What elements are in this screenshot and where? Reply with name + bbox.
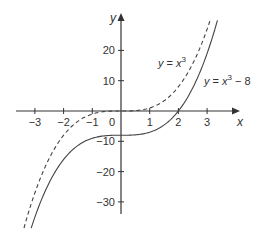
curve-x-cubed [24, 21, 210, 228]
y-axis-arrow-icon [118, 13, 125, 21]
x-axis-label: x [236, 115, 244, 129]
x-tick-label: −3 [29, 116, 42, 128]
x-axis-arrow-icon [232, 108, 240, 115]
y-axis-label: y [109, 11, 117, 25]
curve-label-x-cubed: y = x3 [157, 55, 187, 69]
y-tick-label: −10 [96, 135, 115, 147]
axes [16, 13, 240, 214]
y-tick-label: −30 [96, 196, 115, 208]
y-tick-label: 20 [103, 44, 115, 56]
origin-label: 0 [109, 116, 115, 128]
x-tick-label: 2 [175, 116, 181, 128]
cubic-function-chart: −3−2−11232010−10−20−300yxy = x3y = x3 − … [0, 0, 263, 248]
x-tick-label: 1 [147, 116, 153, 128]
x-tick-label: −2 [57, 116, 70, 128]
labels: −3−2−11232010−10−20−300yxy = x3y = x3 − … [29, 11, 251, 208]
y-tick-label: 10 [103, 75, 115, 87]
x-tick-label: −1 [86, 116, 99, 128]
x-tick-label: 3 [204, 116, 210, 128]
y-tick-label: −20 [96, 166, 115, 178]
curve-label-x-cubed-minus-8: y = x3 − 8 [203, 73, 251, 87]
